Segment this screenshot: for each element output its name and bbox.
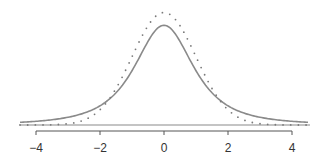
normal-dot (305, 124, 307, 126)
normal-dot (162, 12, 164, 14)
normal-distribution-dots (19, 12, 307, 126)
normal-dot (87, 117, 89, 119)
normal-dot (175, 19, 177, 21)
normal-dot (186, 38, 188, 40)
normal-dot (244, 120, 246, 122)
normal-dot (290, 124, 292, 126)
normal-dot (267, 124, 269, 126)
normal-dot (58, 124, 60, 126)
normal-dot (50, 124, 52, 126)
normal-dot (204, 74, 206, 76)
normal-dot (220, 101, 222, 103)
normal-dot (131, 55, 133, 57)
normal-dot (155, 15, 157, 17)
normal-dot (146, 27, 148, 29)
t-distribution-curve (20, 25, 308, 122)
x-tick-label: 4 (289, 141, 296, 155)
x-tick-label: −4 (29, 141, 43, 155)
normal-dot (194, 52, 196, 54)
normal-dot (109, 97, 111, 99)
normal-dot (207, 81, 209, 83)
normal-dot (259, 123, 261, 125)
normal-dot (80, 120, 82, 122)
normal-dot (150, 21, 152, 23)
normal-dot (105, 103, 107, 105)
density-chart: −4−2024 (0, 0, 325, 164)
normal-dot (128, 62, 130, 64)
normal-dot (169, 13, 171, 15)
normal-dot (200, 67, 202, 69)
normal-dot (298, 124, 300, 126)
normal-dot (225, 107, 227, 109)
x-tick-label: 2 (225, 141, 232, 155)
normal-dot (117, 84, 119, 86)
normal-dot (135, 48, 137, 50)
normal-dot (237, 116, 239, 118)
normal-dot (190, 45, 192, 47)
normal-dot (73, 122, 75, 124)
normal-dot (27, 124, 29, 126)
normal-dot (121, 76, 123, 78)
normal-dot (211, 88, 213, 90)
normal-dot (114, 90, 116, 92)
normal-dot (179, 25, 181, 27)
x-tick-label: 0 (161, 141, 168, 155)
normal-dot (138, 41, 140, 43)
normal-dot (94, 113, 96, 115)
normal-dot (183, 31, 185, 33)
normal-dot (251, 122, 253, 124)
normal-dot (19, 124, 21, 126)
normal-dot (42, 124, 44, 126)
x-tick-label: −2 (93, 141, 107, 155)
normal-dot (282, 124, 284, 126)
normal-dot (142, 34, 144, 36)
normal-dot (125, 69, 127, 71)
normal-dot (65, 123, 67, 125)
normal-dot (215, 94, 217, 96)
normal-dot (34, 124, 36, 126)
normal-dot (231, 112, 233, 114)
normal-dot (99, 109, 101, 111)
normal-dot (274, 124, 276, 126)
normal-dot (197, 59, 199, 61)
